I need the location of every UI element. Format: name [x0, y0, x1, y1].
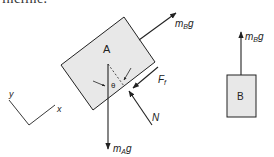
coordinate-axes [9, 100, 55, 125]
block-b-label: B [237, 91, 244, 102]
normal-force-arrow [129, 91, 152, 125]
friction-label: Ff [158, 74, 167, 86]
tension-a-arrow [139, 13, 176, 40]
angle-theta-label: θ [111, 81, 116, 90]
weight-a-label: mAg [113, 143, 132, 155]
x-axis-label: x [56, 104, 62, 114]
tension-b-label: mBg [245, 31, 264, 43]
normal-force-label: N [152, 112, 160, 123]
block-a-label: A [103, 43, 111, 55]
free-body-diagram: A mAg mBg Ff N θ y x B mBg [0, 0, 274, 157]
y-axis-label: y [8, 89, 14, 99]
tension-a-label: mBg [175, 18, 194, 30]
